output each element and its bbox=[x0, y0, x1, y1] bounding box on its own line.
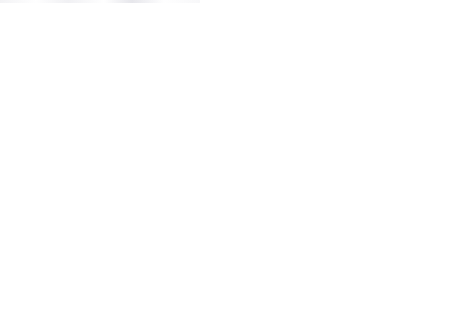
edge-layer bbox=[0, 0, 476, 326]
computational-graph-canvas bbox=[0, 0, 476, 326]
top-scan-artifact bbox=[0, 0, 200, 3]
